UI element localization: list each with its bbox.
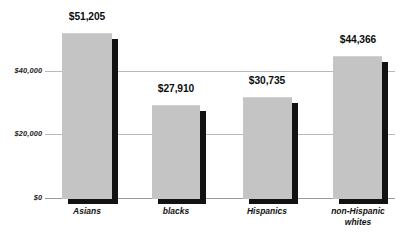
value-label-blacks: $27,910 [139, 82, 213, 94]
bar-asians[interactable] [62, 33, 112, 198]
y-axis-tick-label-20000: $20,000 [14, 129, 42, 138]
bar-blacks[interactable] [152, 105, 200, 198]
category-label-hispanics: Hispanics [229, 206, 304, 217]
value-label-non-hispanic-whites: $44,366 [321, 33, 395, 45]
category-label-non-hispanic-whites: non-Hispanic whites [320, 206, 395, 228]
value-label-hispanics: $30,735 [230, 74, 304, 86]
bar-face [333, 56, 382, 199]
bar-face [243, 97, 292, 199]
y-axis-tick-label-40000: $40,000 [14, 66, 42, 75]
bar-face [62, 33, 112, 199]
y-axis-tick-label-0: $0 [33, 193, 42, 202]
category-label-asians: Asians [49, 206, 124, 217]
bar-face [152, 105, 200, 199]
category-label-blacks: blacks [138, 206, 213, 217]
bar-chart: $40,000 $20,000 $0 $51,205 Asians $27,91… [0, 0, 414, 240]
bar-hispanics[interactable] [243, 97, 292, 198]
bar-non-hispanic-whites[interactable] [333, 56, 382, 198]
plot-area: $40,000 $20,000 $0 $51,205 Asians $27,91… [0, 0, 414, 240]
value-label-asians: $51,205 [50, 10, 124, 22]
